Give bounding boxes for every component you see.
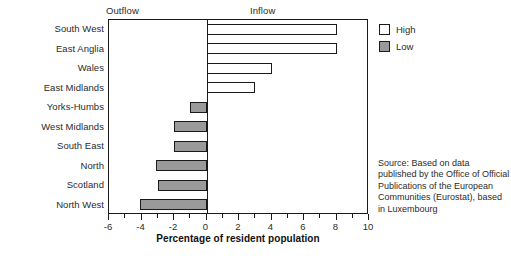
x-tick-major: [108, 214, 109, 220]
x-tick-minor: [189, 214, 190, 218]
bar-row: [109, 20, 367, 40]
legend-swatch-high-icon: [379, 24, 390, 35]
x-tick-major: [271, 214, 272, 220]
bar-row: [109, 118, 367, 138]
x-tick-label: -2: [169, 221, 177, 232]
bar: [207, 24, 337, 35]
bar-row: [109, 59, 367, 79]
x-tick-label: 0: [203, 221, 208, 232]
x-tick-label: 8: [333, 221, 338, 232]
x-tick-major: [336, 214, 337, 220]
x-tick-label: 10: [363, 221, 374, 232]
bar: [158, 180, 207, 191]
x-tick-major: [238, 214, 239, 220]
legend-item-low: Low: [379, 39, 416, 54]
x-tick-minor: [157, 214, 158, 218]
source-note: Source: Based on data published by the O…: [378, 158, 510, 215]
x-tick-minor: [222, 214, 223, 218]
category-label: East Anglia: [56, 39, 104, 59]
x-tick-label: 6: [300, 221, 305, 232]
bar-row: [109, 40, 367, 60]
legend-swatch-low-icon: [379, 41, 390, 52]
bar: [207, 82, 256, 93]
x-tick-minor: [254, 214, 255, 218]
category-label: South East: [57, 136, 104, 156]
x-tick-label: -6: [104, 221, 112, 232]
bar: [156, 160, 206, 171]
x-tick-minor: [352, 214, 353, 218]
x-tick-label: 2: [235, 221, 240, 232]
legend-item-high: High: [379, 22, 416, 37]
x-tick-major: [206, 214, 207, 220]
bar: [190, 102, 206, 113]
plot-area: [108, 19, 368, 214]
bar-row: [109, 157, 367, 177]
x-axis-title: Percentage of resident population: [108, 233, 368, 244]
bar: [174, 141, 207, 152]
bar-row: [109, 137, 367, 157]
bar: [140, 199, 207, 210]
legend-label-high: High: [396, 24, 416, 35]
inflow-header-label: Inflow: [250, 5, 275, 16]
bar: [207, 63, 272, 74]
category-label: Yorks-Humbs: [47, 97, 104, 117]
x-tick-major: [303, 214, 304, 220]
bar-row: [109, 79, 367, 99]
category-label: North: [81, 156, 104, 176]
x-tick-major: [368, 214, 369, 220]
x-tick-minor: [124, 214, 125, 218]
legend-label-low: Low: [396, 41, 413, 52]
x-tick-minor: [287, 214, 288, 218]
outflow-header-label: Outflow: [106, 5, 139, 16]
x-tick-label: 4: [268, 221, 273, 232]
category-label: Scotland: [67, 175, 104, 195]
x-tick-label: -4: [136, 221, 144, 232]
x-tick-minor: [319, 214, 320, 218]
x-tick-major: [173, 214, 174, 220]
category-axis-labels: South WestEast AngliaWalesEast MidlandsY…: [0, 19, 104, 214]
bar-row: [109, 98, 367, 118]
bar-row: [109, 196, 367, 216]
bar: [174, 121, 207, 132]
category-label: North West: [56, 195, 104, 215]
zero-axis-line: [207, 20, 208, 213]
migration-bar-chart: Outflow Inflow South WestEast AngliaWale…: [0, 0, 511, 256]
chart-legend: High Low: [379, 22, 416, 56]
x-tick-major: [141, 214, 142, 220]
category-label: West Midlands: [41, 117, 104, 137]
category-label: South West: [55, 19, 104, 39]
category-label: Wales: [78, 58, 104, 78]
category-label: East Midlands: [44, 78, 104, 98]
bar: [207, 43, 337, 54]
bar-row: [109, 176, 367, 196]
